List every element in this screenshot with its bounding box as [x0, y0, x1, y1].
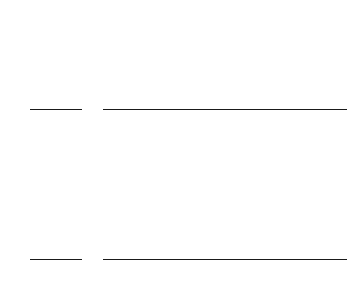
category-label-merged-liquidated — [30, 110, 82, 113]
chart-panel-large-growth — [0, 150, 359, 299]
x-axis-tick-labels — [103, 110, 347, 140]
y-axis-title-top — [13, 3, 25, 103]
bar-group — [30, 166, 82, 260]
bar-group — [30, 16, 82, 110]
figure-container — [0, 0, 359, 299]
histogram-subplot-bottom — [103, 166, 347, 260]
merged-liquidated-subplot-top — [30, 16, 82, 110]
histogram-subplot-top — [103, 16, 347, 110]
x-axis-tick-labels — [103, 260, 347, 290]
bar-group — [103, 16, 347, 110]
bar-group — [103, 166, 347, 260]
category-label-merged-liquidated — [30, 260, 82, 263]
y-axis-title-bottom — [13, 153, 25, 253]
merged-liquidated-subplot-bottom — [30, 166, 82, 260]
chart-panel-large-blended — [0, 0, 359, 149]
